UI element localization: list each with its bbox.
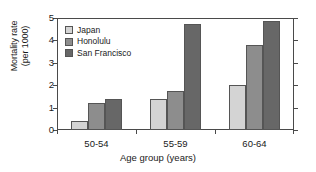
bar (184, 24, 201, 130)
y-tick-label: 1 (34, 102, 54, 113)
y-tick-label: 3 (34, 57, 54, 68)
x-tick-mark (57, 130, 58, 134)
x-axis-group-label: 60-64 (242, 138, 266, 149)
bar (150, 99, 167, 130)
y-tick-mark-right (294, 85, 298, 86)
y-tick-mark-right (294, 108, 298, 109)
y-tick-mark-right (294, 40, 298, 41)
y-tick-mark-right (294, 18, 298, 19)
bar (263, 21, 280, 130)
y-axis-line-right (293, 18, 294, 130)
y-axis-title-line2: (per 1000) (20, 0, 31, 101)
x-tick-mark (293, 130, 294, 134)
plot-area: 012345 50-5455-5960-64 Japan Honolulu Sa… (57, 18, 294, 130)
legend-label-san-francisco: San Francisco (77, 49, 131, 58)
legend-label-honolulu: Honolulu (77, 37, 111, 46)
y-tick-mark-right (294, 63, 298, 64)
bar (167, 91, 184, 130)
legend-swatch-honolulu (65, 38, 73, 46)
y-axis-title: Mortality rate (per 1000) (9, 0, 37, 101)
y-tick-label: 0 (34, 124, 54, 135)
y-tick-mark-right (294, 130, 298, 131)
bar (105, 99, 122, 130)
y-axis-title-line1: Mortality rate (9, 0, 20, 101)
legend-swatch-japan (65, 26, 73, 34)
bar (71, 121, 88, 130)
x-axis-group-label: 50-54 (84, 138, 108, 149)
y-tick-label: 2 (34, 79, 54, 90)
bar (246, 45, 263, 130)
legend-item-san-francisco: San Francisco (65, 48, 131, 58)
y-axis-line-left (57, 18, 58, 130)
x-tick-mark (136, 130, 137, 134)
x-tick-mark (215, 130, 216, 134)
x-axis-title: Age group (years) (0, 152, 316, 163)
legend-swatch-san-francisco (65, 49, 73, 57)
legend-item-honolulu: Honolulu (65, 37, 131, 47)
legend: Japan Honolulu San Francisco (65, 25, 131, 60)
y-tick-label: 5 (34, 12, 54, 23)
y-tick-label: 4 (34, 34, 54, 45)
bar-chart: Mortality rate (per 1000) 012345 50-5455… (0, 0, 316, 172)
bar (229, 85, 246, 130)
legend-item-japan: Japan (65, 25, 131, 35)
bar (88, 103, 105, 130)
legend-label-japan: Japan (77, 26, 100, 35)
x-axis-group-label: 55-59 (163, 138, 187, 149)
plot-top-border (57, 18, 294, 19)
